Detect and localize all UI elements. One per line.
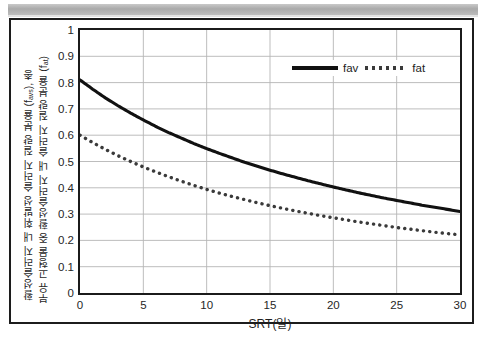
y-tick-label: 0.7	[48, 104, 74, 114]
y-tick-label: 0.3	[48, 209, 74, 219]
chart-page: 활성슬러지 내 휘발성 슬러지 질량 분율 (favs), 총 부유 고형물 중…	[0, 0, 488, 337]
y-tick-label: 0.1	[48, 262, 74, 272]
legend-label-fat: fat	[412, 62, 425, 74]
x-tick-label: 15	[264, 299, 277, 311]
y-tick-label: 0	[48, 288, 74, 298]
y-tick-label: 0.2	[48, 235, 74, 245]
x-tick-label: 5	[140, 299, 146, 311]
x-tick-label: 20	[327, 299, 340, 311]
x-tick-label: 25	[390, 299, 403, 311]
y-tick-label: 0.6	[48, 130, 74, 140]
legend-line-fat-icon	[363, 66, 407, 70]
y-tick-label: 0.8	[48, 78, 74, 88]
y-axis-title-outer-tail: ), 총	[22, 69, 34, 89]
x-tick-label: 10	[200, 299, 213, 311]
y-tick-label: 0.5	[48, 157, 74, 167]
scanner-bar-shadow	[8, 15, 478, 17]
y-tick-label: 0.9	[48, 51, 74, 61]
y-tick-label: 1	[48, 25, 74, 35]
x-axis-title: SRT(일)	[78, 314, 462, 331]
y-tick-label: 0.4	[48, 183, 74, 193]
y-axis-title-outer-subscript: avs	[27, 89, 34, 100]
scanner-gray-bar	[8, 4, 478, 15]
legend-line-fav-icon	[292, 66, 338, 70]
y-axis-tick-labels: 00.10.20.30.40.50.60.70.80.91	[48, 0, 74, 306]
legend: fav fat	[288, 60, 429, 76]
x-tick-label: 0	[77, 299, 83, 311]
legend-label-fav: fav	[343, 62, 358, 74]
y-axis-title-outer-text: 활성슬러지 내 휘발성 슬러지 질량 분율 (f	[22, 100, 34, 300]
x-tick-label: 30	[454, 299, 467, 311]
y-axis-title-outer: 활성슬러지 내 휘발성 슬러지 질량 분율 (favs), 총	[20, 30, 35, 300]
